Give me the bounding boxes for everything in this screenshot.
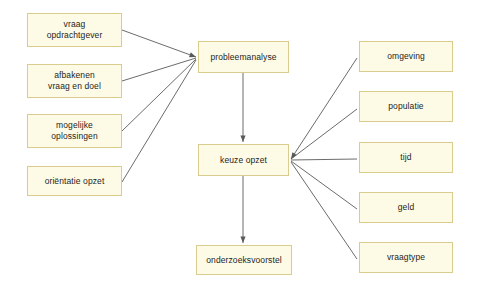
edge-omgeving-to-keuze-opzet <box>291 58 357 159</box>
node-label-geld: geld <box>396 202 416 213</box>
node-label-vraagtype: vraagtype <box>385 252 427 263</box>
node-vraag-opdrachtgever[interactable]: vraag opdrachtgever <box>27 13 122 47</box>
node-omgeving[interactable]: omgeving <box>359 41 453 72</box>
node-label-keuze-opzet: keuze opzet <box>218 155 269 166</box>
arrowhead-keuze-opzet <box>240 135 245 142</box>
node-label-omgeving: omgeving <box>385 51 427 62</box>
node-label-populatie: populatie <box>386 101 425 112</box>
edge-vraagtype-to-keuze-opzet <box>291 162 357 259</box>
edge-orientatie-opzet-to-probleemanalyse <box>122 60 196 182</box>
edge-populatie-to-keuze-opzet <box>291 109 357 159</box>
arrowhead-onderzoeksvoorstel <box>240 236 245 243</box>
node-label-probleemanalyse: probleemanalyse <box>208 52 278 63</box>
node-geld[interactable]: geld <box>359 192 453 223</box>
node-label-vraag-opdrachtgever: vraag opdrachtgever <box>45 19 105 41</box>
edge-mogelijke-oplossingen-to-probleemanalyse <box>122 59 196 131</box>
node-tijd[interactable]: tijd <box>359 142 453 173</box>
node-label-orientatie-opzet: oriëntatie opzet <box>43 176 107 187</box>
node-vraagtype[interactable]: vraagtype <box>359 242 453 273</box>
node-label-afbakenen-vraag-doel: afbakenen vraag en doel <box>46 70 103 92</box>
edge-tijd-to-keuze-opzet <box>291 159 357 160</box>
node-afbakenen-vraag-doel[interactable]: afbakenen vraag en doel <box>27 64 122 98</box>
node-mogelijke-oplossingen[interactable]: mogelijke oplossingen <box>27 114 122 148</box>
node-label-tijd: tijd <box>398 152 413 163</box>
node-probleemanalyse[interactable]: probleemanalyse <box>198 41 289 73</box>
arrowhead-probleemanalyse <box>189 52 196 57</box>
node-label-onderzoeksvoorstel: onderzoeksvoorstel <box>204 255 284 266</box>
node-onderzoeksvoorstel[interactable]: onderzoeksvoorstel <box>196 245 292 275</box>
node-orientatie-opzet[interactable]: oriëntatie opzet <box>27 166 122 196</box>
arrowhead-keuze-opzet <box>291 152 297 159</box>
edge-vraag-opdrachtgever-to-probleemanalyse <box>122 30 196 57</box>
edge-afbakenen-vraag-doel-to-probleemanalyse <box>122 58 196 81</box>
diagram-canvas: vraag opdrachtgeverafbakenen vraag en do… <box>0 0 477 291</box>
node-populatie[interactable]: populatie <box>359 91 453 122</box>
node-keuze-opzet[interactable]: keuze opzet <box>198 144 289 176</box>
edge-geld-to-keuze-opzet <box>291 161 357 209</box>
node-label-mogelijke-oplossingen: mogelijke oplossingen <box>49 120 99 142</box>
